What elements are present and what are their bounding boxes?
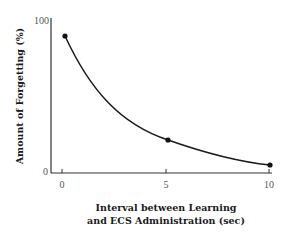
- x-tick-label-0: 0: [60, 179, 65, 190]
- x-axis-title-line-1: Interval between Learning: [96, 202, 237, 213]
- forgetting-chart: 0 5 10 100 0 Amount of Forgetting (%) In…: [0, 0, 291, 238]
- x-axis-title-line-2: and ECS Administration (sec): [87, 215, 245, 226]
- forgetting-curve: [65, 36, 270, 165]
- data-point-5s: [165, 137, 170, 142]
- x-tick-label-5: 5: [164, 179, 169, 190]
- y-axis-title: Amount of Forgetting (%): [14, 28, 25, 166]
- y-tick-label-100: 100: [34, 15, 49, 26]
- data-point-10s: [267, 162, 272, 167]
- data-point-0s: [62, 33, 67, 38]
- x-tick-label-10: 10: [264, 179, 274, 190]
- y-tick-label-0: 0: [43, 166, 48, 177]
